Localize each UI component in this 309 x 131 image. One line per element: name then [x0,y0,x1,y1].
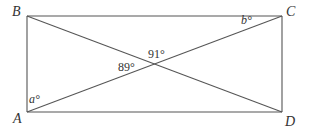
vertex-label-c: C [286,5,295,19]
vertex-label-d: D [285,115,295,129]
angle-label-89: 89° [118,61,135,73]
angle-label-a: a° [29,93,40,105]
angle-label-b: b° [241,14,252,26]
vertex-label-a: A [13,112,22,126]
rectangle-diagram: B C A D a° b° 91° 89° [0,0,309,131]
vertex-label-b: B [12,5,21,19]
angle-label-91: 91° [148,48,165,60]
diagram-lines [0,0,309,131]
